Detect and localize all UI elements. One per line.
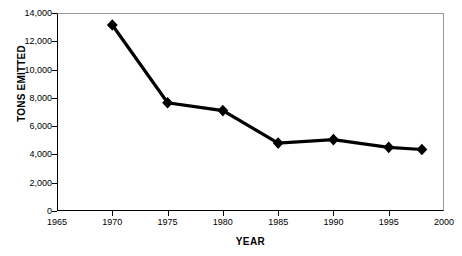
line-chart: 02,0004,0006,0008,00010,00012,00014,000 … (0, 0, 462, 256)
data-point-marker (383, 142, 394, 154)
x-axis-title: YEAR (57, 236, 444, 247)
data-point-marker (328, 134, 339, 146)
y-axis-title: TONS EMITTED (16, 24, 27, 144)
series-line (112, 25, 422, 150)
data-series-layer (0, 0, 462, 256)
data-point-marker (416, 144, 427, 156)
